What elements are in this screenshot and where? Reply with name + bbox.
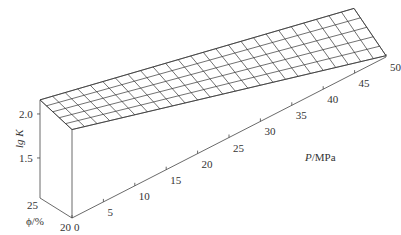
p-tick-label-10: 10 — [139, 191, 150, 202]
p-tick-label-30: 30 — [264, 126, 275, 137]
p-tick-label-50: 50 — [390, 62, 401, 73]
p-tick-label-35: 35 — [296, 110, 307, 121]
p-tick-label-0: 0 — [74, 222, 80, 233]
phi-tick-label-25: 25 — [27, 200, 38, 211]
p-axis-title: P/MPa — [305, 152, 336, 163]
phi-tick-label-20: 20 — [60, 222, 71, 233]
z-tick-label-1-5: 1.5 — [19, 153, 33, 164]
p-tick-label-5: 5 — [107, 207, 113, 218]
p-tick-label-15: 15 — [170, 175, 181, 186]
z-tick-label-2-0: 2.0 — [19, 109, 33, 120]
p-tick-label-45: 45 — [359, 78, 370, 89]
p-tick-label-25: 25 — [233, 143, 244, 154]
surface-chart — [0, 0, 401, 235]
phi-axis-title: ϕ/% — [26, 216, 44, 227]
z-axis-title: lg K — [14, 129, 25, 148]
p-tick-label-20: 20 — [202, 159, 213, 170]
p-tick-label-40: 40 — [327, 94, 338, 105]
surface-grid — [40, 8, 386, 129]
